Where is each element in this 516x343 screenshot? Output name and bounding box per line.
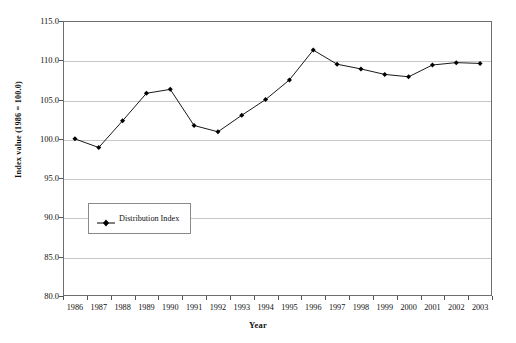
- data-point-marker: [192, 123, 197, 128]
- x-axis-tick-mark: [87, 296, 88, 300]
- y-axis-tick-label: 100.0: [20, 134, 59, 144]
- x-axis-tick-mark: [492, 296, 493, 300]
- data-point-marker: [168, 87, 173, 92]
- data-point-marker: [478, 61, 483, 66]
- chart-container: 80.085.090.095.0100.0105.0110.0115.0 Ind…: [0, 0, 516, 343]
- x-axis-tick-mark: [182, 296, 183, 300]
- x-axis-tick-mark: [301, 296, 302, 300]
- data-point-marker: [430, 63, 435, 68]
- x-axis-tick-mark: [254, 296, 255, 300]
- data-point-marker: [454, 60, 459, 65]
- legend: Distribution Index: [88, 203, 191, 234]
- y-axis-tick-label: 85.0: [20, 252, 59, 262]
- x-axis-tick-mark: [278, 296, 279, 300]
- legend-label: Distribution Index: [119, 214, 179, 223]
- legend-diamond-marker-icon: [97, 214, 115, 224]
- x-axis-title: Year: [0, 320, 516, 330]
- x-axis-tick-mark: [444, 296, 445, 300]
- x-axis-tick-label: 2003: [460, 303, 500, 312]
- data-point-marker: [335, 62, 340, 67]
- x-axis-tick-mark: [135, 296, 136, 300]
- series-line: [75, 50, 480, 147]
- x-axis-tick-mark: [206, 296, 207, 300]
- x-axis-tick-mark: [397, 296, 398, 300]
- data-point-marker: [406, 74, 411, 79]
- y-axis-tick-label: 105.0: [20, 95, 59, 105]
- x-axis-tick-mark: [63, 296, 64, 300]
- x-axis-tick-mark: [158, 296, 159, 300]
- y-axis-tick-label: 90.0: [20, 212, 59, 222]
- y-axis-tick-label: 115.0: [20, 16, 59, 26]
- x-axis-tick-mark: [421, 296, 422, 300]
- data-point-marker: [72, 136, 77, 141]
- y-axis-tick-label: 110.0: [20, 55, 59, 65]
- y-axis-title: Index value (1986 = 100.0): [14, 55, 23, 205]
- legend-item-distribution-index: Distribution Index: [89, 204, 190, 233]
- x-axis-tick-mark: [373, 296, 374, 300]
- data-series-distribution-index: [63, 21, 492, 296]
- y-axis-tick-label: 80.0: [20, 291, 59, 301]
- data-point-marker: [358, 66, 363, 71]
- data-point-marker: [382, 72, 387, 77]
- x-axis-tick-mark: [349, 296, 350, 300]
- x-axis-tick-mark: [325, 296, 326, 300]
- x-axis-tick-mark: [468, 296, 469, 300]
- x-axis-tick-mark: [111, 296, 112, 300]
- y-axis-tick-label: 95.0: [20, 173, 59, 183]
- x-axis-tick-mark: [230, 296, 231, 300]
